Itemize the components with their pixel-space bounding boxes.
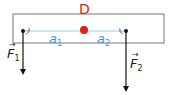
- lever-arm-1-label: a1: [49, 32, 62, 48]
- pivot-label: D: [79, 2, 90, 16]
- force-1-label: → F1: [7, 47, 20, 63]
- pivot-point: [80, 26, 88, 34]
- arrowhead-down-icon: [20, 69, 26, 75]
- lever-arm-2-label: a2: [97, 32, 110, 48]
- beam: [13, 14, 164, 43]
- force-2-label: → F2: [130, 57, 143, 73]
- arrowhead-down-icon: [123, 86, 129, 92]
